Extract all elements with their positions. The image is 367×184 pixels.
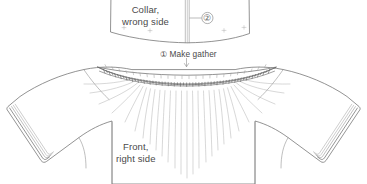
collar-label-line2: wrong side [122,16,169,28]
front-label-line1: Front, [116,141,156,153]
callout-2-number: ② [203,13,211,23]
collar-label: Collar, wrong side [122,4,169,28]
front-label: Front, right side [116,141,156,165]
front-label-line2: right side [116,153,156,165]
sewing-diagram: .ln { fill:none; stroke:#6f6f6f; stroke-… [0,0,367,184]
collar-label-line1: Collar, [122,4,169,16]
diagram-linework: .ln { fill:none; stroke:#6f6f6f; stroke-… [0,0,367,184]
make-gather-label: ① Make gather [160,49,217,60]
